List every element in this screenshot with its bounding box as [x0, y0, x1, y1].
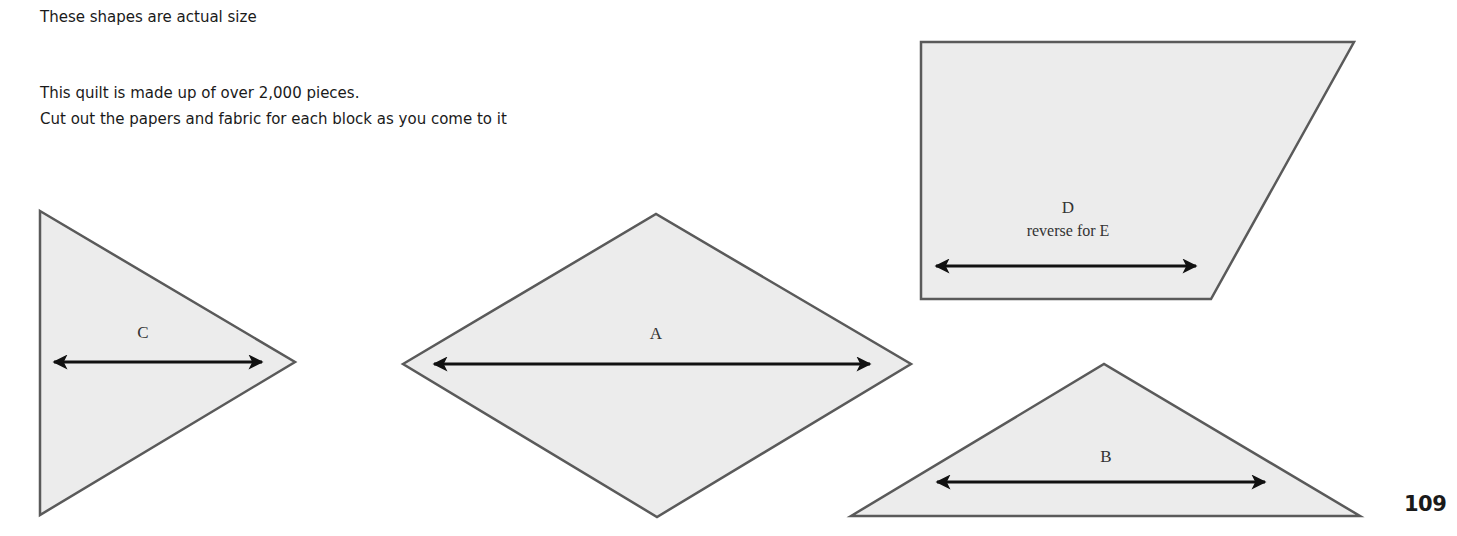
shape-d: D reverse for E	[921, 42, 1354, 299]
shape-d-sublabel: reverse for E	[1027, 222, 1110, 239]
shape-b-label: B	[1100, 447, 1111, 466]
shape-c-label: C	[137, 323, 148, 342]
shape-a-label: A	[650, 324, 663, 343]
template-shapes: C A D reverse for E B	[0, 0, 1457, 536]
shape-b: B	[851, 364, 1360, 516]
shape-c: C	[40, 211, 295, 515]
shape-d-label: D	[1062, 198, 1074, 217]
shape-a: A	[403, 214, 911, 517]
page-number: 109	[1404, 492, 1446, 516]
